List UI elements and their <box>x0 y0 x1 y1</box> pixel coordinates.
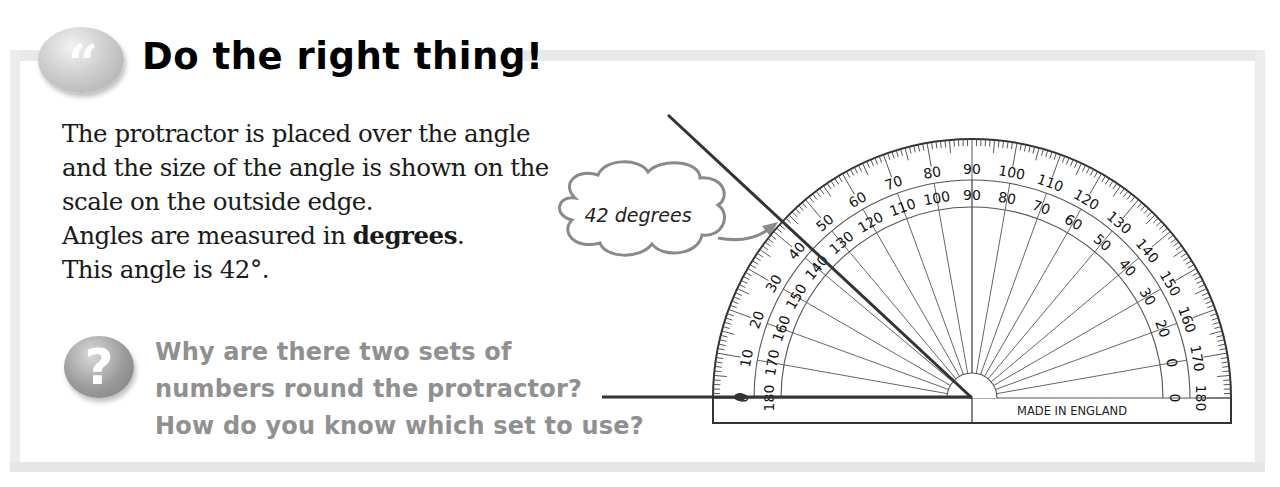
imprint-label: MADE IN ENGLAND <box>1017 404 1127 418</box>
callout-label: 42 degrees <box>584 204 691 226</box>
outer-scale-label: 90 <box>963 161 981 177</box>
inner-scale-label: 80 <box>997 189 1017 208</box>
inner-scale-label: 0 <box>1167 394 1183 403</box>
protractor: 0102030405060708090100110120130140150160… <box>713 139 1231 423</box>
inner-scale-label: 90 <box>963 187 981 203</box>
zero-mark <box>734 393 746 401</box>
outer-scale-label: 10 <box>737 348 756 368</box>
outer-scale-label: 80 <box>922 163 942 182</box>
outer-scale-label: 180 <box>1193 385 1209 412</box>
callout-cloud: 42 degrees <box>559 162 778 255</box>
protractor-diagram: 42 degrees 01020304050607080901001101201… <box>0 0 1280 487</box>
